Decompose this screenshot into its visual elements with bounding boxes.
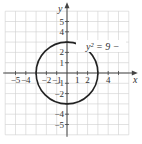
y-tick-label: −4: [54, 109, 64, 119]
x-axis-label: x: [132, 74, 138, 85]
y-tick-label: −2: [54, 89, 64, 99]
y-tick-label: 4: [60, 27, 65, 37]
x-tick-label: −2: [42, 75, 52, 85]
equation-label: y² = 9 −: [85, 41, 119, 52]
y-tick-label: 1: [60, 58, 65, 68]
y-tick-label: −1: [54, 78, 64, 88]
x-tick-label: 1: [75, 75, 80, 85]
y-tick-label: −5: [54, 120, 64, 130]
circle-graph-figure: −5−4−2−11245421−1−2−4−5 y² = 9 − x y: [0, 0, 142, 144]
y-axis-label: y: [57, 3, 63, 14]
x-tick-label: −4: [21, 75, 31, 85]
x-tick-label: 4: [106, 75, 111, 85]
axes: [3, 2, 138, 137]
y-tick-label: 5: [60, 17, 65, 27]
x-tick-label: 2: [85, 75, 90, 85]
coordinate-plane: −5−4−2−11245421−1−2−4−5 y² = 9 − x y: [0, 0, 142, 144]
y-axis-arrow-icon: [65, 2, 70, 8]
x-tick-label: −5: [11, 75, 21, 85]
y-tick-label: 2: [60, 47, 65, 57]
